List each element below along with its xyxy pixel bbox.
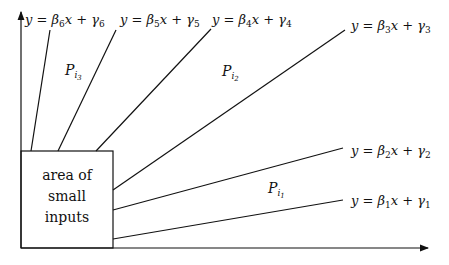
- line-4: [96, 29, 211, 151]
- region-p-i2: Pi2: [221, 63, 239, 83]
- piecewise-linear-diagram: area of small inputs y = β1x + γ1 y = β2…: [0, 0, 449, 265]
- line-2-label: y = β2x + γ2: [350, 143, 431, 160]
- line-3-label: y = β3x + γ3: [350, 18, 431, 35]
- line-5-label: y = β5x + γ5: [119, 12, 200, 29]
- line-1-label: y = β1x + γ1: [350, 193, 431, 210]
- line-6: [31, 30, 50, 151]
- line-1: [113, 200, 343, 239]
- line-2: [113, 148, 343, 210]
- region-p-i1: Pi1: [267, 180, 285, 200]
- line-3: [113, 30, 345, 190]
- line-5: [58, 30, 116, 151]
- box-text-line-2: small: [48, 188, 86, 204]
- box-text-line-3: inputs: [45, 209, 89, 225]
- box-text-line-1: area of: [42, 167, 94, 183]
- line-4-label: y = β4x + γ4: [211, 12, 292, 29]
- line-6-label: y = β6x + γ6: [24, 12, 105, 29]
- region-p-i3: Pi3: [64, 62, 82, 82]
